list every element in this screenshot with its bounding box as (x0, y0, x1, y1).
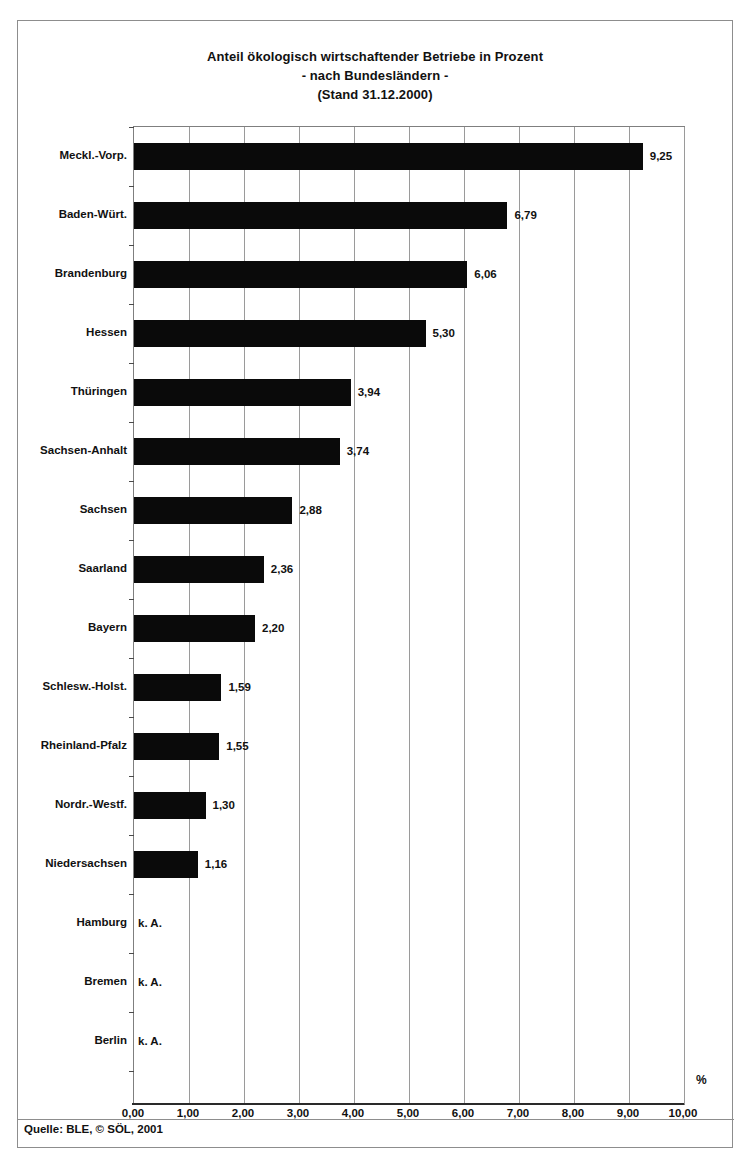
bar-chart: Meckl.-Vorp.Baden-Würt.BrandenburgHessen… (18, 21, 734, 1149)
y-axis-label: Rheinland-Pfalz (21, 716, 127, 775)
y-axis-label-row: Niedersachsen (18, 834, 127, 893)
y-axis-tick (129, 1071, 134, 1072)
x-axis-tick-label: 8,00 (562, 1107, 584, 1119)
bar-row: 2,36 (134, 540, 684, 599)
bar (134, 733, 219, 760)
bar-value-label: 3,94 (351, 379, 380, 406)
y-axis-label: Bremen (21, 952, 127, 1011)
bar (134, 615, 255, 642)
bar (134, 792, 206, 819)
bar (134, 674, 221, 701)
x-axis-tick-label: 1,00 (177, 1107, 199, 1119)
x-axis-tick-label: 3,00 (287, 1107, 309, 1119)
chart-frame: Anteil ökologisch wirtschaftender Betrie… (17, 20, 733, 1148)
y-axis-label-row: Schlesw.-Holst. (18, 657, 127, 716)
bar-row: k. A. (134, 1012, 684, 1071)
y-axis-label: Brandenburg (21, 244, 127, 303)
bar-value-label: 1,55 (219, 733, 248, 760)
bar-value-label: 6,06 (467, 261, 496, 288)
bar (134, 261, 467, 288)
x-axis-tick-label: 4,00 (342, 1107, 364, 1119)
source-note: Quelle: BLE, © SÖL, 2001 (24, 1123, 163, 1135)
x-axis-tick-label: 10,00 (669, 1107, 698, 1119)
bar (134, 851, 198, 878)
y-axis-label-row: Nordr.-Westf. (18, 775, 127, 834)
bar-no-data-label: k. A. (134, 1028, 162, 1055)
bar-row: 2,20 (134, 599, 684, 658)
bar (134, 556, 264, 583)
footer-divider (18, 1119, 734, 1120)
bar-row: k. A. (134, 953, 684, 1012)
x-axis-tick-label: 5,00 (397, 1107, 419, 1119)
x-axis-line (132, 1103, 684, 1105)
bar-row: 6,79 (134, 186, 684, 245)
bar-value-label: 5,30 (426, 320, 455, 347)
gridline (684, 127, 685, 1104)
bar-row: 2,88 (134, 481, 684, 540)
bar-value-label: 2,36 (264, 556, 293, 583)
y-axis-label-row: Baden-Würt. (18, 185, 127, 244)
bar (134, 320, 426, 347)
bar-value-label: 2,20 (255, 615, 284, 642)
bar-row: 1,30 (134, 776, 684, 835)
bar-no-data-label: k. A. (134, 910, 162, 937)
bar-value-label: 3,74 (340, 438, 369, 465)
y-axis-label-row: Saarland (18, 539, 127, 598)
y-axis-label-row: Bayern (18, 598, 127, 657)
bar (134, 438, 340, 465)
bar-row: 3,74 (134, 422, 684, 481)
bar (134, 143, 643, 170)
bar-value-label: 1,59 (221, 674, 250, 701)
y-axis-label: Schlesw.-Holst. (21, 657, 127, 716)
y-axis-label: Nordr.-Westf. (21, 775, 127, 834)
bar (134, 379, 351, 406)
y-axis-label-row: Thüringen (18, 362, 127, 421)
y-axis-category-labels: Meckl.-Vorp.Baden-Würt.BrandenburgHessen… (18, 126, 127, 1103)
x-axis-unit-label: % (696, 1073, 707, 1087)
y-axis-label-row: Sachsen (18, 480, 127, 539)
x-axis-tick-label: 9,00 (617, 1107, 639, 1119)
x-axis-tick-label: 2,00 (232, 1107, 254, 1119)
y-axis-label-row: Sachsen-Anhalt (18, 421, 127, 480)
bar-row: 9,25 (134, 127, 684, 186)
x-axis-tick-label: 6,00 (452, 1107, 474, 1119)
bar-value-label: 9,25 (643, 143, 672, 170)
y-axis-label-row: Bremen (18, 952, 127, 1011)
y-axis-label: Sachsen-Anhalt (21, 421, 127, 480)
x-axis-tick-labels: 0,001,002,003,004,005,006,007,008,009,00… (133, 1107, 683, 1129)
bar-row: 3,94 (134, 363, 684, 422)
y-axis-label: Hessen (21, 303, 127, 362)
y-axis-label: Meckl.-Vorp. (21, 126, 127, 185)
bar-value-label: 6,79 (507, 202, 536, 229)
bar-no-data-label: k. A. (134, 969, 162, 996)
y-axis-label-row: Rheinland-Pfalz (18, 716, 127, 775)
y-axis-label: Bayern (21, 598, 127, 657)
plot-area: 9,256,796,065,303,943,742,882,362,201,59… (133, 126, 685, 1105)
x-axis-tick-label: 0,00 (122, 1107, 144, 1119)
y-axis-label-row: Hamburg (18, 893, 127, 952)
y-axis-label: Sachsen (21, 480, 127, 539)
y-axis-label-row: Meckl.-Vorp. (18, 126, 127, 185)
bar-value-label: 1,16 (198, 851, 227, 878)
bar-row: 1,16 (134, 835, 684, 894)
y-axis-label: Saarland (21, 539, 127, 598)
x-axis-tick-label: 7,00 (507, 1107, 529, 1119)
bar-row: 1,59 (134, 658, 684, 717)
bar (134, 497, 292, 524)
bar-value-label: 2,88 (292, 497, 321, 524)
y-axis-label: Baden-Würt. (21, 185, 127, 244)
y-axis-label: Niedersachsen (21, 834, 127, 893)
bar-value-label: 1,30 (206, 792, 235, 819)
y-axis-label-row: Berlin (18, 1011, 127, 1070)
bar (134, 202, 507, 229)
y-axis-label: Thüringen (21, 362, 127, 421)
bar-row: 1,55 (134, 717, 684, 776)
y-axis-label-row: Brandenburg (18, 244, 127, 303)
bar-row: k. A. (134, 894, 684, 953)
y-axis-label: Berlin (21, 1011, 127, 1070)
y-axis-label: Hamburg (21, 893, 127, 952)
bar-row: 5,30 (134, 304, 684, 363)
bar-row: 6,06 (134, 245, 684, 304)
y-axis-label-row: Hessen (18, 303, 127, 362)
